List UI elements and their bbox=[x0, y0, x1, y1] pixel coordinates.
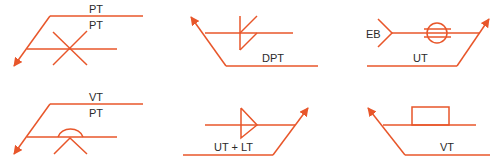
arrow-leader bbox=[14, 104, 50, 154]
arrow-leader bbox=[191, 17, 226, 66]
inverted-v-icon bbox=[54, 138, 87, 154]
arrow-leader bbox=[273, 108, 308, 155]
symbol-panel-2: DPT bbox=[191, 16, 318, 66]
arrow-leader bbox=[14, 16, 50, 66]
weld-symbol-diagram: PT PT DPT EB UT VT PT bbox=[0, 0, 490, 168]
symbol-panel-1: PT PT bbox=[14, 3, 143, 66]
label-bottom: UT bbox=[413, 52, 428, 64]
rectangle-backing-icon bbox=[412, 107, 449, 125]
label-tail: EB bbox=[366, 28, 381, 40]
label-middle: PT bbox=[89, 107, 103, 119]
triangle-flag-icon bbox=[241, 108, 257, 138]
fillet-weld-icon bbox=[240, 16, 257, 33]
symbol-panel-4: VT PT bbox=[14, 91, 143, 154]
symbol-panel-5: UT + LT bbox=[183, 108, 308, 155]
label-bottom: VT bbox=[440, 141, 454, 153]
arc-icon bbox=[58, 129, 83, 137]
arrow-leader bbox=[457, 19, 489, 66]
label-bottom: UT + LT bbox=[214, 141, 253, 153]
arrow-leader bbox=[368, 108, 405, 155]
fillet-weld-icon bbox=[240, 33, 257, 50]
label-bottom: DPT bbox=[262, 52, 284, 64]
label-middle: PT bbox=[89, 19, 103, 31]
symbol-panel-3: EB UT bbox=[366, 19, 489, 66]
label-top: VT bbox=[89, 91, 103, 103]
symbol-panel-6: VT bbox=[368, 107, 490, 155]
label-top: PT bbox=[89, 3, 103, 15]
